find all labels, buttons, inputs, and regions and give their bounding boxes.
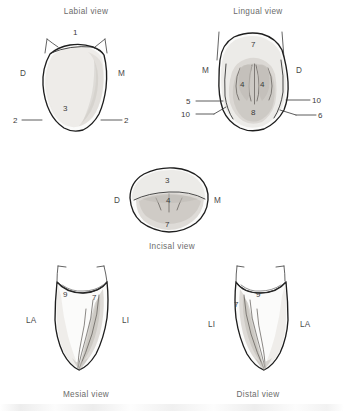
distal-callout-9: 9: [256, 290, 260, 299]
incisal-side-label-mesial: M: [214, 196, 221, 205]
lingual-callout-7: 7: [251, 40, 255, 49]
mesial-callout-7: 7: [92, 293, 96, 302]
labial-side-label-mesial: M: [118, 69, 125, 78]
labial-callout-2-left: 2: [13, 116, 17, 125]
panel-distal-view: 9 7 LI LA Distal view: [172, 262, 344, 413]
labial-side-label-distal: D: [20, 69, 26, 78]
lingual-callout-8: 8: [251, 108, 255, 117]
lingual-callout-4-right: 4: [260, 80, 264, 89]
labial-callout-2-right: 2: [124, 116, 128, 125]
panel-mesial-view: 9 7 LA LI Mesial view: [0, 262, 172, 413]
scan-artifact: [0, 404, 344, 411]
lingual-side-label-distal: D: [296, 66, 302, 75]
mesial-side-label-labial: LA: [26, 316, 37, 325]
incisal-callout-4: 4: [166, 196, 170, 205]
mesial-view-title: Mesial view: [0, 390, 172, 399]
lingual-side-label-mesial: M: [202, 66, 209, 75]
labial-view-drawing: [0, 0, 172, 160]
lingual-callout-4-left: 4: [240, 80, 244, 89]
mesial-side-label-lingual: LI: [122, 316, 129, 325]
labial-callout-1: 1: [73, 28, 77, 37]
labial-callout-3: 3: [63, 104, 67, 113]
panel-labial-view: Labial view 1 3 2 2 D M: [0, 0, 172, 160]
panel-lingual-view: Lingual view: [172, 0, 344, 160]
distal-view-title: Distal view: [172, 390, 344, 399]
incisal-callout-3: 3: [165, 176, 169, 185]
incisal-view-drawing: [86, 160, 258, 240]
panel-incisal-view: 3 4 7 D M Incisal view: [86, 160, 258, 260]
lingual-callout-10-right: 10: [312, 96, 321, 105]
distal-side-label-lingual: LI: [208, 320, 215, 329]
mesial-view-drawing: [0, 262, 172, 392]
tooth-anatomy-figure: Labial view 1 3 2 2 D M L: [0, 0, 344, 413]
incisal-side-label-distal: D: [114, 196, 120, 205]
distal-callout-7: 7: [234, 300, 238, 309]
lingual-callout-10-left: 10: [181, 110, 190, 119]
lingual-callout-6: 6: [318, 111, 322, 120]
distal-side-label-labial: LA: [300, 320, 311, 329]
mesial-callout-9: 9: [63, 290, 67, 299]
incisal-view-title: Incisal view: [86, 242, 258, 251]
lingual-callout-5: 5: [186, 97, 190, 106]
lingual-view-drawing: [172, 0, 344, 160]
incisal-callout-7: 7: [165, 220, 169, 229]
distal-view-drawing: [172, 262, 344, 392]
